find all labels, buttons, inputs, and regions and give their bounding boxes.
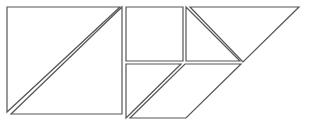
tangram-diagram xyxy=(0,0,309,129)
small-square xyxy=(126,7,183,61)
